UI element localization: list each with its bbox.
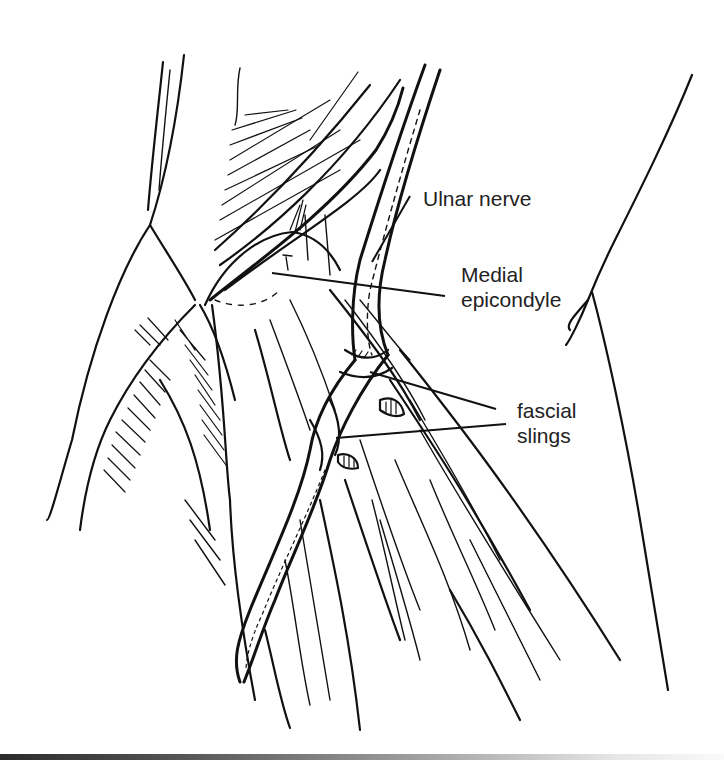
label-ulnar-nerve-text: Ulnar nerve bbox=[423, 187, 532, 210]
label-medial-epicondyle: Medial epicondyle bbox=[461, 262, 561, 312]
label-medial-epicondyle-line1: Medial bbox=[461, 262, 561, 287]
right-arm-contour bbox=[566, 75, 692, 690]
bottom-edge-band bbox=[0, 754, 724, 760]
anatomy-illustration: Ulnar nerve Medial epicondyle fascial sl… bbox=[0, 0, 724, 760]
leader-fascial-slings-upper bbox=[370, 372, 496, 409]
left-forearm-muscle bbox=[80, 305, 226, 585]
label-ulnar-nerve: Ulnar nerve bbox=[423, 186, 532, 211]
medial-epicondyle-drawing bbox=[205, 232, 340, 305]
left-arm-contour bbox=[47, 55, 195, 520]
forearm-flexor-fibres bbox=[200, 290, 620, 730]
upper-arm-fibres bbox=[210, 68, 403, 300]
leader-medial-epicondyle bbox=[272, 273, 445, 296]
label-medial-epicondyle-line2: epicondyle bbox=[461, 287, 561, 312]
label-fascial-slings-line2: slings bbox=[517, 423, 577, 448]
label-fascial-slings-line1: fascial bbox=[517, 398, 577, 423]
label-fascial-slings: fascial slings bbox=[517, 398, 577, 448]
illustration-canvas bbox=[0, 0, 724, 760]
